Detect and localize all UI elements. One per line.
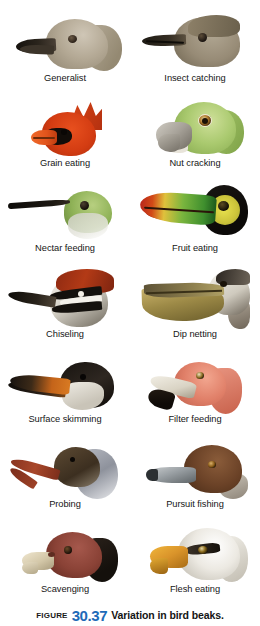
panel-label-pursuit-fishing: Pursuit fishing <box>166 499 224 510</box>
eagle-head-icon <box>136 524 254 584</box>
toucan-head-icon <box>136 183 254 243</box>
figure-caption-title: Variation in bird beaks. <box>111 609 224 621</box>
flycatcher-head-icon <box>136 13 254 73</box>
beak-panel-chiseling: Chiseling <box>0 255 130 340</box>
panel-label-insect-catching: Insect catching <box>164 73 225 84</box>
woodpecker-head-icon <box>6 269 124 329</box>
beak-panel-probing: Probing <box>0 426 130 511</box>
skimmer-head-icon <box>6 354 124 414</box>
duck-head-icon <box>136 439 254 499</box>
panel-label-grain-eating: Grain eating <box>40 158 90 169</box>
parrot-head-icon <box>136 98 254 158</box>
pelican-head-icon <box>136 269 254 329</box>
beak-panel-insect-catching: Insect catching <box>130 0 260 85</box>
figure-caption-number: 30.37 <box>72 607 108 624</box>
flamingo-head-icon <box>136 354 254 414</box>
bird-beak-figure: Generalist Insect catching Grain eating <box>0 0 260 626</box>
beak-panel-grid: Generalist Insect catching Grain eating <box>0 0 260 596</box>
figure-caption: Figure 30.37 Variation in bird beaks. <box>0 604 260 626</box>
beak-panel-flesh-eating: Flesh eating <box>130 511 260 596</box>
panel-label-nut-cracking: Nut cracking <box>169 158 220 169</box>
panel-label-filter-feeding: Filter feeding <box>168 414 221 425</box>
panel-label-surface-skimming: Surface skimming <box>28 414 101 425</box>
panel-label-dip-netting: Dip netting <box>173 329 217 340</box>
figure-caption-prefix: Figure <box>36 611 67 620</box>
gull-head-icon <box>6 13 124 73</box>
beak-panel-generalist: Generalist <box>0 0 130 85</box>
panel-label-scavenging: Scavenging <box>41 584 89 595</box>
beak-panel-dip-netting: Dip netting <box>130 255 260 340</box>
panel-label-generalist: Generalist <box>44 73 86 84</box>
panel-label-flesh-eating: Flesh eating <box>170 584 220 595</box>
beak-panel-scavenging: Scavenging <box>0 511 130 596</box>
beak-panel-pursuit-fishing: Pursuit fishing <box>130 426 260 511</box>
beak-panel-grain-eating: Grain eating <box>0 85 130 170</box>
beak-panel-nectar-feeding: Nectar feeding <box>0 170 130 255</box>
beak-panel-nut-cracking: Nut cracking <box>130 85 260 170</box>
hummingbird-head-icon <box>6 183 124 243</box>
cardinal-head-icon <box>6 98 124 158</box>
vulture-head-icon <box>6 524 124 584</box>
ibis-head-icon <box>6 439 124 499</box>
beak-panel-fruit-eating: Fruit eating <box>130 170 260 255</box>
panel-label-fruit-eating: Fruit eating <box>172 243 218 254</box>
panel-label-nectar-feeding: Nectar feeding <box>35 243 95 254</box>
panel-label-probing: Probing <box>49 499 81 510</box>
panel-label-chiseling: Chiseling <box>46 329 84 340</box>
beak-panel-surface-skimming: Surface skimming <box>0 341 130 426</box>
beak-panel-filter-feeding: Filter feeding <box>130 341 260 426</box>
